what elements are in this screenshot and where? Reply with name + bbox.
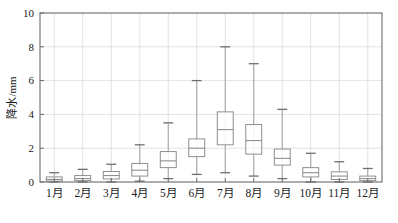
box-iqr bbox=[217, 112, 233, 145]
x-tick-label-3: 3月 bbox=[103, 187, 120, 199]
x-tick-label-6: 6月 bbox=[188, 187, 205, 199]
y-axis-title-group: 降水/mm bbox=[5, 76, 18, 119]
y-axis-title: 降水/mm bbox=[5, 76, 18, 119]
x-tick-label-5: 5月 bbox=[160, 187, 177, 199]
x-tick-label-2: 2月 bbox=[74, 187, 91, 199]
x-tick-label-9: 9月 bbox=[274, 187, 291, 199]
box-iqr bbox=[246, 125, 262, 155]
box-iqr bbox=[274, 149, 290, 165]
y-tick-label: 6 bbox=[29, 74, 35, 86]
x-tick-label-4: 4月 bbox=[131, 187, 148, 199]
x-tick-label-7: 7月 bbox=[217, 187, 234, 199]
y-tick-label: 0 bbox=[29, 176, 35, 188]
box-iqr bbox=[160, 152, 176, 168]
x-tick-label-10: 10月 bbox=[300, 187, 323, 199]
x-tick-label-12: 12月 bbox=[357, 187, 380, 199]
y-tick-label: 4 bbox=[29, 108, 35, 120]
y-tick-label: 10 bbox=[23, 7, 35, 19]
x-tick-label-8: 8月 bbox=[245, 187, 262, 199]
x-tick-label-1: 1月 bbox=[46, 187, 63, 199]
chart-container: 0246810 1月2月3月4月5月6月7月8月9月10月11月12月 降水/m… bbox=[0, 0, 398, 223]
y-tick-label: 8 bbox=[29, 41, 35, 53]
x-tick-label-11: 11月 bbox=[328, 187, 350, 199]
boxplot-chart: 0246810 1月2月3月4月5月6月7月8月9月10月11月12月 降水/m… bbox=[0, 0, 398, 223]
y-tick-label: 2 bbox=[29, 142, 35, 154]
